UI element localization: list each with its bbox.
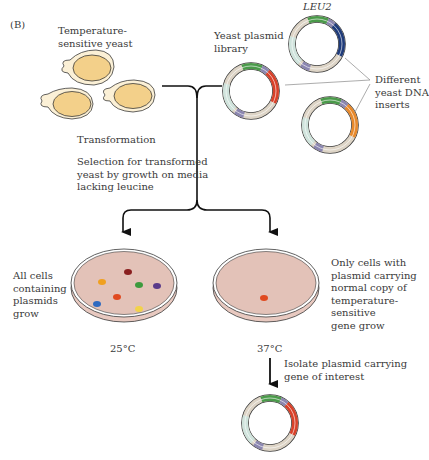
- colony-icon: [153, 283, 161, 289]
- arrow-to-25c-dish: [123, 200, 197, 232]
- colony-icon: [260, 295, 268, 301]
- colony-icon: [93, 301, 101, 307]
- leu2-label: LEU2: [303, 1, 332, 14]
- colony-icon: [98, 279, 106, 285]
- petri-dish-25c: [71, 249, 177, 322]
- yeast-cell-icon: [41, 88, 93, 119]
- selection-label: Selection for transformed yeast by growt…: [77, 156, 208, 194]
- colony-icon: [135, 306, 143, 312]
- panel-label: (B): [10, 19, 25, 32]
- yeast-cell-icon: [62, 50, 114, 85]
- temp-25c-label: 25°C: [110, 343, 135, 356]
- plasmid-orange-insert-icon: [305, 100, 355, 150]
- isolated-plasmid-icon: [245, 398, 295, 448]
- plasmid-library-label: Yeast plasmid library: [214, 30, 284, 55]
- merge-line: [162, 86, 197, 98]
- all-cells-label: All cells containing plasmids grow: [13, 270, 67, 320]
- transformation-label: Transformation: [77, 134, 156, 147]
- temp-37c-label: 37°C: [257, 343, 282, 356]
- plasmid-navy-insert-icon: [292, 19, 342, 69]
- pointer-line: [355, 84, 370, 112]
- plasmid-red-insert-icon: [226, 66, 276, 116]
- isolate-label: Isolate plasmid carrying gene of interes…: [284, 358, 407, 383]
- pointer-line: [345, 58, 370, 80]
- colony-icon: [135, 282, 143, 288]
- colony-icon: [124, 269, 132, 275]
- different-inserts-label: Different yeast DNA inserts: [375, 74, 429, 112]
- arrow-to-37c-dish: [197, 200, 270, 232]
- yeast-cell-icon: [103, 80, 155, 112]
- petri-dish-37c: [213, 249, 319, 322]
- merge-line: [197, 86, 222, 98]
- colony-icon: [113, 294, 121, 300]
- pointer-line: [285, 80, 370, 85]
- ts-yeast-label: Temperature- sensitive yeast: [58, 25, 132, 50]
- diagram-canvas: [0, 0, 429, 460]
- only-cells-label: Only cells with plasmid carrying normal …: [331, 257, 429, 332]
